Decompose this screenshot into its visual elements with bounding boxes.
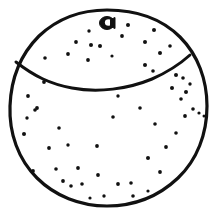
pore-speck xyxy=(197,111,200,114)
pore-speck xyxy=(143,40,147,44)
pore-speck xyxy=(66,143,69,146)
pore-speck xyxy=(143,63,147,67)
navel-notch xyxy=(111,18,116,29)
pore-speck xyxy=(179,97,183,101)
pore-speck xyxy=(31,169,35,173)
pore-speck xyxy=(87,29,90,32)
pore-speck xyxy=(126,23,130,27)
pore-speck xyxy=(152,28,156,32)
pore-speck xyxy=(33,108,37,112)
pore-speck xyxy=(42,80,46,84)
pore-speck xyxy=(174,131,178,135)
pore-speck xyxy=(158,51,162,55)
pore-speck xyxy=(181,76,185,80)
pore-speck xyxy=(102,194,105,197)
pore-speck xyxy=(54,167,58,171)
pore-speck xyxy=(80,182,84,186)
pore-speck xyxy=(170,86,174,90)
pore-speck xyxy=(131,194,135,198)
pore-speck xyxy=(151,69,155,73)
pore-speck xyxy=(120,34,124,38)
pore-speck xyxy=(66,52,70,56)
pore-speck xyxy=(25,116,28,119)
stem-navel-mark xyxy=(100,17,116,30)
pore-speck xyxy=(88,196,91,199)
pore-speck xyxy=(191,107,195,111)
pore-speck xyxy=(174,73,178,77)
pore-speck xyxy=(76,166,80,170)
pore-speck xyxy=(168,44,172,48)
pore-speck xyxy=(129,181,133,185)
pore-speck xyxy=(183,114,187,118)
pore-speck xyxy=(95,144,99,148)
pore-speck xyxy=(22,132,26,136)
pore-speck xyxy=(184,90,188,94)
pore-speck xyxy=(69,184,73,188)
pore-speck xyxy=(43,56,47,60)
pore-speck xyxy=(153,122,157,126)
pore-speck xyxy=(116,94,119,97)
pore-speck xyxy=(158,170,162,174)
pore-speck xyxy=(146,189,149,192)
pore-speck xyxy=(203,115,206,118)
pore-speck xyxy=(116,182,120,186)
pore-speck xyxy=(96,173,100,177)
orange-illustration-canvas: Orange xyxy=(0,0,216,214)
pore-speck xyxy=(74,40,78,44)
pore-speck xyxy=(111,115,115,119)
pore-speck xyxy=(61,179,65,183)
pore-speck xyxy=(98,44,102,48)
pore-speck xyxy=(89,43,93,47)
pore-speck xyxy=(146,156,150,160)
pore-speck xyxy=(57,126,61,130)
fruit-drawing-svg: Orange xyxy=(0,0,216,214)
pore-speck xyxy=(188,82,191,85)
pore-speck xyxy=(86,58,90,62)
pore-speck xyxy=(164,145,168,149)
pore-speck xyxy=(47,146,51,150)
pore-speck xyxy=(26,94,30,98)
pore-speck xyxy=(138,106,142,110)
pore-speck xyxy=(110,54,113,57)
fruit-body-outline xyxy=(10,10,207,206)
